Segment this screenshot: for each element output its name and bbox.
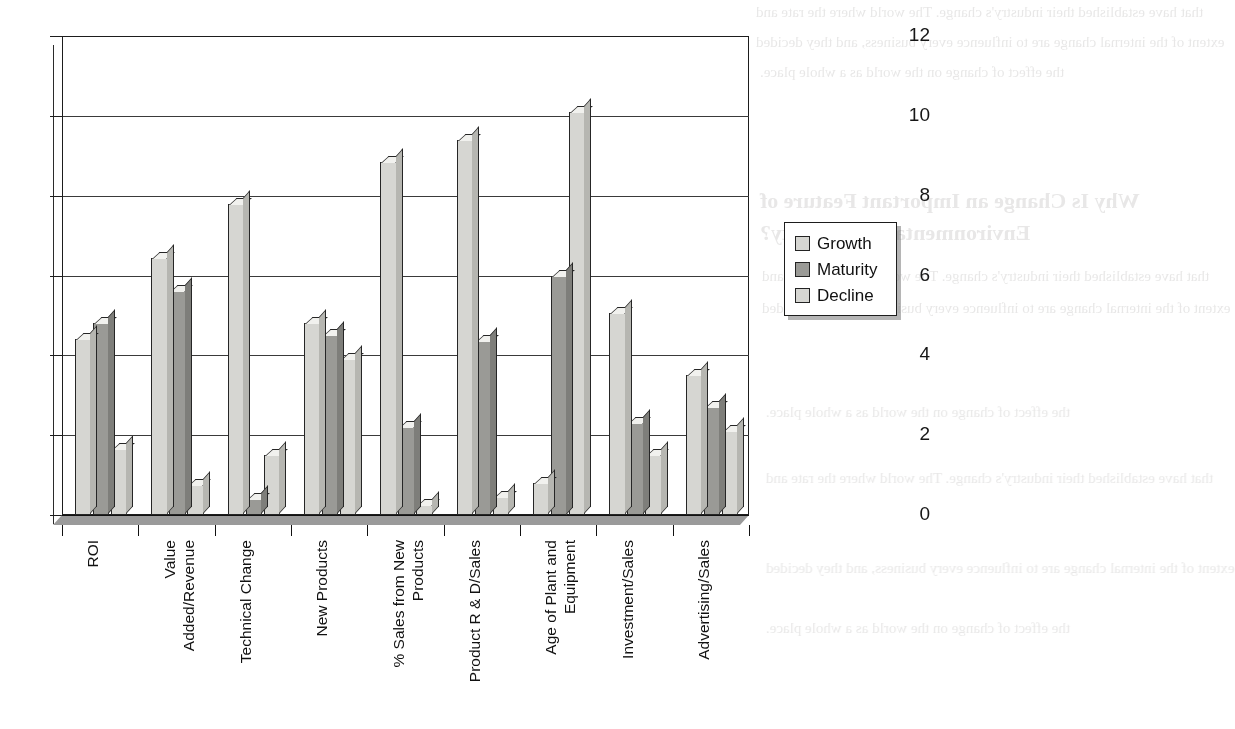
bar-side-face <box>337 322 344 514</box>
legend-item-decline[interactable]: Decline <box>795 287 888 304</box>
legend-item-growth[interactable]: Growth <box>795 235 888 252</box>
x-category-label: New Products <box>312 540 332 710</box>
x-tick-mark <box>215 525 216 536</box>
axis-depth-edge <box>53 45 54 524</box>
legend-label-decline: Decline <box>817 287 874 304</box>
bar-side-face <box>584 98 591 514</box>
bar-side-face <box>472 126 479 514</box>
legend-swatch-growth <box>795 236 810 251</box>
x-tick-mark <box>520 525 521 536</box>
x-tick-mark <box>749 525 750 536</box>
y-tick-label: 2 <box>892 423 930 445</box>
bar-growth[interactable] <box>609 313 626 515</box>
bar-side-face <box>319 310 326 514</box>
bar-growth[interactable] <box>228 204 245 515</box>
x-tick-mark <box>673 525 674 536</box>
bar-growth[interactable] <box>380 162 397 515</box>
bar-side-face <box>279 441 286 514</box>
bar-side-face <box>719 393 726 514</box>
bar-side-face <box>167 244 174 514</box>
x-category-label: Value <box>160 540 180 710</box>
x-category-label: ROI <box>83 540 103 710</box>
bar-side-face <box>126 435 133 514</box>
bar-side-face <box>108 310 115 514</box>
legend-swatch-decline <box>795 288 810 303</box>
x-category-label: Equipment <box>560 540 580 710</box>
bar-side-face <box>414 413 421 514</box>
x-category-label: Added/Revenue <box>179 540 199 710</box>
bar-side-face <box>203 471 210 514</box>
x-tick-mark <box>367 525 368 536</box>
chart-floor <box>53 515 749 526</box>
bar-growth[interactable] <box>151 258 168 515</box>
legend-swatch-maturity <box>795 262 810 277</box>
y-tick-label: 8 <box>892 184 930 206</box>
bar-side-face <box>643 409 650 514</box>
x-tick-mark <box>596 525 597 536</box>
x-tick-mark <box>444 525 445 536</box>
bar-side-face <box>185 278 192 514</box>
x-category-label: Age of Plant and <box>541 540 561 710</box>
y-tick-label: 12 <box>892 24 930 46</box>
legend-item-maturity[interactable]: Maturity <box>795 261 888 278</box>
bar-side-face <box>737 417 744 514</box>
bar-side-face <box>701 362 708 514</box>
bar-growth[interactable] <box>75 339 92 515</box>
bar-growth[interactable] <box>304 323 321 515</box>
bar-side-face <box>432 491 439 514</box>
x-category-label: % Sales from New <box>389 540 409 710</box>
chart-legend[interactable]: Growth Maturity Decline <box>784 222 897 316</box>
bar-side-face <box>490 328 497 514</box>
legend-label-growth: Growth <box>817 235 872 252</box>
y-tick-label: 6 <box>892 264 930 286</box>
x-category-label: Technical Change <box>236 540 256 710</box>
bar-side-face <box>625 300 632 514</box>
bar-growth[interactable] <box>533 483 550 515</box>
x-axis-line <box>62 515 749 516</box>
bar-side-face <box>355 346 362 514</box>
x-tick-mark <box>291 525 292 536</box>
x-tick-mark <box>62 525 63 536</box>
x-category-label: Product R & D/Sales <box>465 540 485 710</box>
bar-side-face <box>508 483 515 514</box>
bar-side-face <box>243 190 250 514</box>
bars-layer <box>62 36 749 515</box>
bar-side-face <box>566 262 573 514</box>
x-category-label: Products <box>408 540 428 710</box>
x-category-label: Advertising/Sales <box>694 540 714 710</box>
bar-side-face <box>90 326 97 514</box>
bar-side-face <box>661 441 668 514</box>
legend-label-maturity: Maturity <box>817 261 877 278</box>
x-category-label: Investment/Sales <box>618 540 638 710</box>
bar-growth[interactable] <box>686 375 703 515</box>
y-tick-label: 0 <box>892 503 930 525</box>
y-tick-label: 10 <box>892 104 930 126</box>
y-tick-label: 4 <box>892 343 930 365</box>
x-tick-mark <box>138 525 139 536</box>
bar-growth[interactable] <box>457 140 474 515</box>
bar-side-face <box>396 148 403 514</box>
